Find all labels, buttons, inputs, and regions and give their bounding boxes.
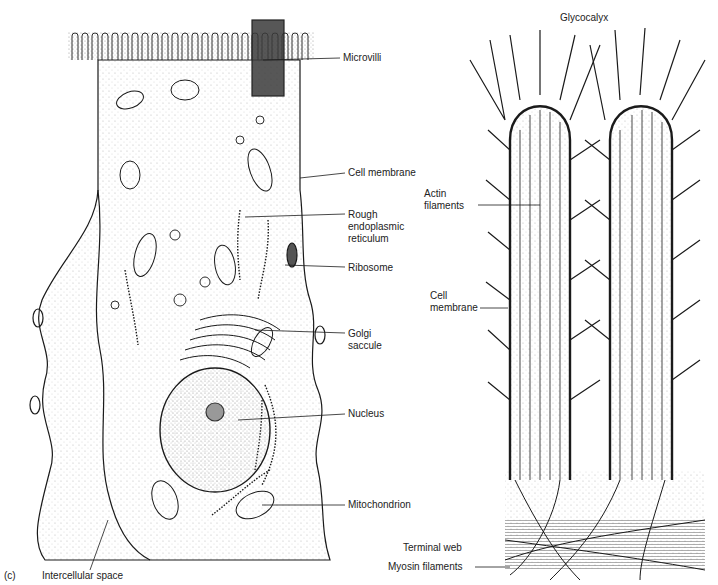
- left-cell: [30, 20, 345, 570]
- label-golgi-line1: Golgi: [348, 328, 371, 340]
- highlight-box: [252, 20, 284, 96]
- label-glycocalyx: Glycocalyx: [560, 12, 608, 24]
- label-rer-line1: Rough: [348, 209, 377, 221]
- panel-letter: (c): [4, 570, 16, 582]
- label-cell-membrane: Cell membrane: [348, 167, 416, 179]
- label-ribosome: Ribosome: [348, 262, 393, 274]
- cell-diagram: [0, 0, 718, 585]
- label-microvilli: Microvilli: [343, 52, 381, 64]
- label-nucleus: Nucleus: [348, 408, 384, 420]
- right-microvilli: [470, 28, 705, 580]
- label-cell-membrane-right-line2: membrane: [430, 302, 478, 314]
- label-intercellular-space: Intercellular space: [42, 570, 123, 582]
- label-golgi-line2: saccule: [348, 340, 382, 352]
- label-terminal-web: Terminal web: [403, 542, 462, 554]
- label-actin-line1: Actin: [424, 188, 446, 200]
- label-actin-line2: filaments: [424, 200, 464, 212]
- label-mitochondrion: Mitochondrion: [348, 499, 411, 511]
- label-rer-line2: endoplasmic: [348, 221, 404, 233]
- cell-body: [37, 60, 330, 560]
- label-rer-line3: reticulum: [348, 233, 389, 245]
- label-myosin-filaments: Myosin filaments: [388, 561, 462, 573]
- label-cell-membrane-right-line1: Cell: [430, 290, 447, 302]
- villus-right: [610, 106, 672, 480]
